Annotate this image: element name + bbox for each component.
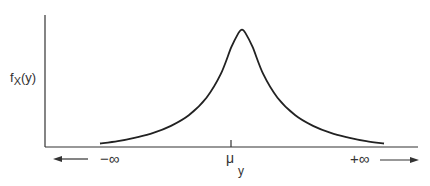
x-tick-label-pos-infinity: +∞ bbox=[350, 150, 370, 167]
x-tick-label-mean-sub: y bbox=[238, 164, 244, 178]
y-label-paren: (y) bbox=[21, 70, 36, 85]
left-arrow-icon bbox=[53, 156, 88, 162]
density-diagram: fX(y) −∞ μ y +∞ bbox=[0, 0, 430, 186]
x-tick-label-neg-infinity: −∞ bbox=[100, 150, 120, 167]
density-curve bbox=[100, 30, 384, 144]
right-arrow-icon bbox=[380, 157, 419, 163]
y-axis-label: fX(y) bbox=[10, 70, 36, 87]
x-tick-label-mean: μ bbox=[226, 150, 234, 166]
